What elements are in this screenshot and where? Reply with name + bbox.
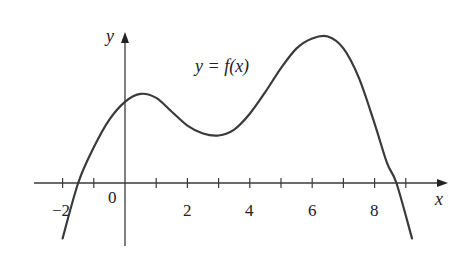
y-axis-arrow-icon [121, 32, 129, 43]
tick-label-4: 4 [245, 201, 254, 220]
x-axis-arrow-icon [437, 179, 448, 187]
curve-label: y = f(x) [193, 56, 249, 77]
function-graph: −2 0 2 4 6 8 y x y = f(x) [0, 0, 472, 261]
tick-label-2: 2 [183, 201, 192, 220]
tick-label-0: 0 [108, 188, 117, 207]
tick-label-6: 6 [308, 201, 317, 220]
tick-label-8: 8 [370, 201, 379, 220]
y-axis-label: y [104, 26, 114, 46]
x-axis-label: x [434, 189, 443, 209]
